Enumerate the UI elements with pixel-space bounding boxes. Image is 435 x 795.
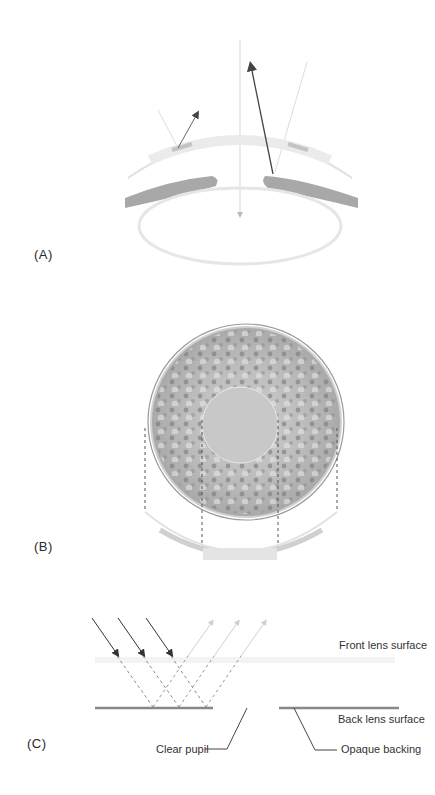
label-front-lens-surface: Front lens surface — [339, 639, 427, 651]
refracted-ray-2 — [143, 656, 179, 707]
incident-arrow-1 — [92, 618, 117, 654]
reflected-dashed-1 — [153, 656, 188, 707]
panel-label-c: (C) — [27, 736, 47, 751]
label-opaque-backing: Opaque backing — [341, 743, 421, 755]
reflection-diagram — [0, 0, 435, 795]
incident-arrow-3 — [146, 618, 171, 654]
incident-arrow-2 — [118, 618, 143, 654]
refracted-ray-1 — [117, 656, 153, 707]
clear-pupil-leader — [205, 708, 247, 749]
front-lens-surface — [95, 657, 395, 663]
refracted-ray-3 — [171, 656, 206, 707]
reflected-arrow-2 — [214, 622, 238, 656]
reflected-dashed-3 — [206, 656, 241, 707]
label-clear-pupil: Clear pupil — [156, 743, 209, 755]
opaque-backing-leader — [294, 708, 337, 750]
reflected-arrow-1 — [188, 622, 212, 656]
label-back-lens-surface: Back lens surface — [338, 713, 425, 725]
reflected-arrow-3 — [241, 622, 265, 656]
reflected-dashed-2 — [179, 656, 214, 707]
